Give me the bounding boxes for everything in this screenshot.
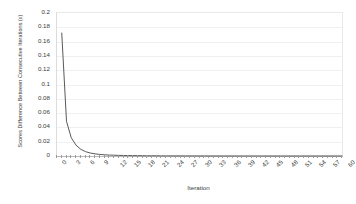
x-tickmark — [298, 155, 299, 158]
y-tick-label: 0.1 — [18, 80, 50, 86]
x-tickmark — [146, 155, 147, 158]
x-tickmark — [246, 155, 247, 158]
x-tickmark — [203, 155, 204, 158]
x-tickmark — [260, 155, 261, 158]
y-tick-label: 0.2 — [18, 9, 50, 15]
x-tickmark — [127, 155, 128, 158]
x-tickmark — [232, 155, 233, 158]
x-tickmark — [170, 155, 171, 158]
x-tickmark — [189, 155, 190, 158]
x-tickmark — [332, 155, 333, 158]
x-tickmark — [175, 155, 176, 158]
x-tick-label: 15 — [133, 159, 142, 168]
x-tickmark — [80, 155, 81, 158]
y-tick-label: 0.04 — [18, 123, 50, 129]
y-tick-label: 0.08 — [18, 95, 50, 101]
x-tickmark — [108, 155, 109, 158]
x-tick-label: 0 — [61, 159, 68, 166]
x-tickmark — [113, 155, 114, 158]
x-tick-label: 57 — [332, 159, 341, 168]
x-tickmark — [275, 155, 276, 158]
x-tick-label: 36 — [233, 159, 242, 168]
y-tick-label: 0.14 — [18, 52, 50, 58]
y-tick-label: 0.02 — [18, 138, 50, 144]
x-tickmark — [213, 155, 214, 158]
x-tickmark — [241, 155, 242, 158]
x-tickmark — [270, 155, 271, 158]
y-axis-tick-labels: 00.020.040.060.080.10.120.140.160.180.2 — [18, 0, 50, 165]
x-tickmark — [341, 155, 342, 158]
x-tick-label: 42 — [261, 159, 270, 168]
x-tickmark — [85, 155, 86, 158]
x-tick-label: 21 — [161, 159, 170, 168]
x-tickmark — [118, 155, 119, 158]
x-tickmark — [199, 155, 200, 158]
series-line-chart — [57, 13, 342, 156]
x-tickmark — [56, 155, 57, 158]
x-tick-label: 33 — [218, 159, 227, 168]
plot-area — [56, 12, 343, 157]
x-tick-label: 54 — [318, 159, 327, 168]
x-tickmark — [99, 155, 100, 158]
x-tick-label: 9 — [103, 159, 110, 166]
x-tick-label: 12 — [119, 159, 128, 168]
x-tickmark — [313, 155, 314, 158]
x-tickmark — [227, 155, 228, 158]
series-line — [62, 33, 342, 156]
x-tick-label: 39 — [247, 159, 256, 168]
x-tickmark — [317, 155, 318, 158]
x-tickmark — [94, 155, 95, 158]
x-tick-label: 45 — [275, 159, 284, 168]
x-tick-label: 48 — [290, 159, 299, 168]
x-tickmark — [132, 155, 133, 158]
x-tickmark — [184, 155, 185, 158]
x-tickmark — [66, 155, 67, 158]
x-tickmark — [142, 155, 143, 158]
x-tick-label: 30 — [204, 159, 213, 168]
x-tick-label: 3 — [75, 159, 82, 166]
x-tickmark — [256, 155, 257, 158]
x-tickmark — [327, 155, 328, 158]
x-tickmark — [156, 155, 157, 158]
x-tickmark — [303, 155, 304, 158]
x-tickmark — [289, 155, 290, 158]
y-tick-label: 0.16 — [18, 37, 50, 43]
x-tick-label: 6 — [89, 159, 96, 166]
x-tickmark — [284, 155, 285, 158]
y-tick-label: 0.12 — [18, 66, 50, 72]
x-tick-label: 24 — [176, 159, 185, 168]
x-tick-label: 51 — [304, 159, 313, 168]
y-tick-label: 0.18 — [18, 23, 50, 29]
y-tick-label: 0.06 — [18, 109, 50, 115]
x-tick-label: 27 — [190, 159, 199, 168]
x-axis-tick-labels: 03691215182124273033363942454851545760 — [56, 159, 341, 183]
x-tick-label: 60 — [347, 159, 356, 168]
x-axis-title: Iteration — [56, 184, 341, 191]
x-tickmark — [218, 155, 219, 158]
y-tick-label: 0 — [18, 152, 50, 158]
x-tickmark — [160, 155, 161, 158]
x-tickmark — [70, 155, 71, 158]
x-tick-label: 18 — [147, 159, 156, 168]
